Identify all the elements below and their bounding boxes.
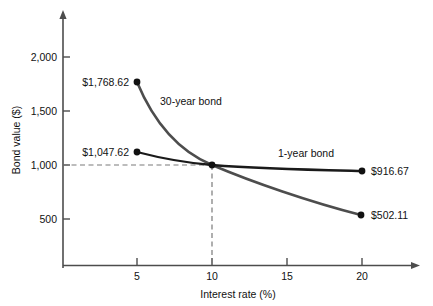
- x-tick-label-15: 15: [281, 270, 293, 282]
- bond-value-chart: 2,000 1,500 1,000 500 5 10 15 20 Interes…: [0, 0, 433, 306]
- point-label-1047: $1,047.62: [82, 146, 129, 158]
- data-point-intersection-10pct: [209, 162, 216, 169]
- data-point-30y-20pct: [358, 212, 365, 219]
- reference-lines: [63, 165, 212, 265]
- point-label-1768: $1,768.62: [82, 76, 129, 88]
- y-tick-marks: [63, 57, 70, 219]
- x-axis-title: Interest rate (%): [200, 288, 275, 300]
- y-tick-label-1000: 1,000: [31, 159, 57, 171]
- x-axis-arrow-icon: [411, 262, 420, 269]
- y-axis-arrow-icon: [59, 10, 66, 19]
- series-label-30-year-bond: 30-year bond: [160, 95, 222, 107]
- x-tick-label-10: 10: [206, 270, 218, 282]
- point-label-916: $916.67: [371, 165, 409, 177]
- x-tick-marks: [137, 258, 362, 266]
- x-tick-label-20: 20: [356, 270, 368, 282]
- axis-group: [59, 10, 420, 269]
- point-label-502: $502.11: [371, 209, 408, 221]
- data-point-1y-5pct: [134, 149, 141, 156]
- data-point-30y-5pct: [134, 79, 141, 86]
- data-point-1y-20pct: [359, 168, 366, 175]
- y-axis-title: Bond value ($): [10, 106, 22, 174]
- y-tick-label-500: 500: [39, 213, 57, 225]
- chart-canvas: 2,000 1,500 1,000 500 5 10 15 20 Interes…: [0, 0, 433, 306]
- x-tick-label-5: 5: [134, 270, 140, 282]
- y-tick-label-2000: 2,000: [31, 51, 57, 63]
- y-tick-label-1500: 1,500: [31, 105, 57, 117]
- series-label-1-year-bond: 1-year bond: [278, 147, 334, 159]
